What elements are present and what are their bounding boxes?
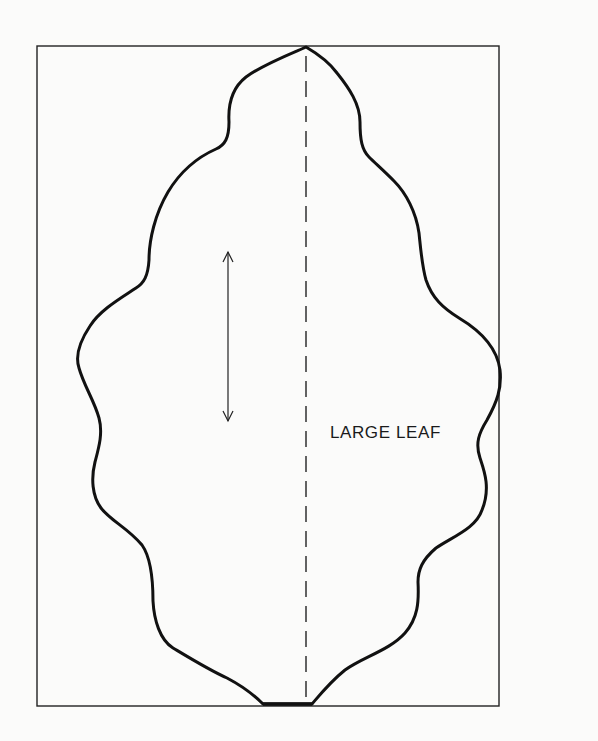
pattern-canvas bbox=[0, 0, 598, 741]
grain-line-arrow-icon bbox=[223, 252, 233, 421]
pattern-frame bbox=[37, 46, 499, 706]
pattern-label: LARGE LEAF bbox=[330, 423, 441, 443]
leaf-outline bbox=[78, 47, 501, 704]
